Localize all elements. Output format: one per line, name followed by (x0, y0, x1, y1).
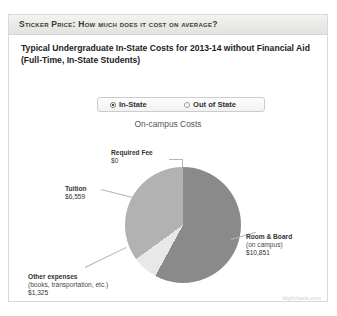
leader-line-required-fee (182, 159, 183, 183)
chart-subtitle: Typical Undergraduate In-State Costs for… (21, 43, 317, 66)
radio-option-out-of-state[interactable]: Out of State (184, 100, 236, 109)
chart-title: On-campus Costs (9, 119, 327, 129)
pie-label-name: Tuition (65, 185, 86, 193)
widget-header-bar: Sticker Price: How much does it cost on … (9, 15, 327, 35)
radio-dot-icon[interactable] (184, 102, 190, 108)
page-title: Sticker Price: How much does it cost on … (19, 19, 218, 29)
pie-label-value: $0 (111, 157, 153, 165)
radio-dot-icon[interactable] (110, 102, 116, 108)
pie-label-name: Other expenses (28, 273, 108, 281)
pie-label-sub: (books, transportation, etc.) (28, 281, 108, 289)
radio-label-out-of-state: Out of State (193, 100, 236, 109)
chart-widget: Sticker Price: How much does it cost on … (8, 14, 328, 302)
pie-label-required-fee: Required Fee $0 (111, 149, 153, 165)
leader-line-required-fee-elbow (169, 159, 183, 160)
pie-label-sub: (on campus) (246, 241, 292, 249)
pie-label-value: $1,325 (28, 289, 108, 297)
pie-label-other-expenses: Other expenses (books, transportation, e… (28, 273, 108, 298)
chart-subtitle-line2: (Full-Time, In-State Students) (21, 55, 317, 67)
radio-option-in-state[interactable]: In-State (110, 100, 147, 109)
state-toggle-group[interactable]: In-State Out of State (97, 97, 265, 112)
pie-label-name: Room & Board (246, 233, 292, 241)
pie-label-name: Required Fee (111, 149, 153, 157)
chart-subtitle-line1: Typical Undergraduate In-State Costs for… (21, 43, 310, 53)
radio-label-in-state: In-State (119, 100, 147, 109)
leader-line-other-expenses (85, 247, 127, 268)
pie-chart[interactable] (125, 167, 241, 283)
chart-credits[interactable]: Highcharts.com (282, 295, 321, 301)
pie-label-value: $10,851 (246, 249, 292, 257)
leader-line-tuition (101, 189, 136, 199)
pie-label-value: $6,559 (65, 193, 86, 201)
pie-label-room-board: Room & Board (on campus) $10,851 (246, 233, 292, 258)
pie-chart-area: On-campus Costs Required Fee $0 Tuition … (9, 115, 327, 302)
pie-label-tuition: Tuition $6,559 (65, 185, 86, 201)
